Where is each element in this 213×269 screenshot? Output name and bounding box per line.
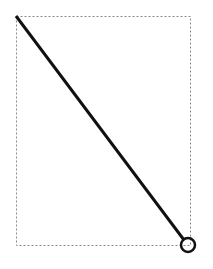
diagonal-line-shape[interactable] <box>16 16 184 240</box>
drawing-canvas[interactable] <box>0 0 213 269</box>
